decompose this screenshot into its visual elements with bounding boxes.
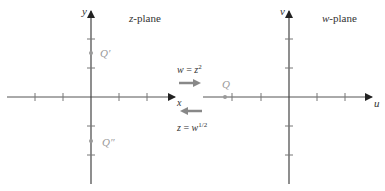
z-plane: y x Q′ Q″ z-plane <box>7 5 182 184</box>
q-label: Q <box>222 78 230 90</box>
left-arrow-icon <box>180 107 202 115</box>
q-double-prime-label: Q″ <box>102 136 115 148</box>
forward-mapping-label: w = z2 <box>177 63 202 75</box>
point-q <box>223 95 227 99</box>
point-q-prime <box>89 51 93 55</box>
z-x-axis-label: x <box>176 97 182 108</box>
w-v-axis-label: v <box>280 5 285 17</box>
w-plane: v u Q w-plane <box>203 5 380 184</box>
z-plane-title: z-plane <box>128 12 161 24</box>
point-q-double-prime <box>89 139 93 143</box>
q-prime-label: Q′ <box>100 47 111 59</box>
w-u-axis-label: u <box>374 97 380 109</box>
z-y-axis-label: y <box>81 5 87 17</box>
forward-mapping: w = z2 <box>177 63 202 87</box>
right-arrow-icon <box>179 79 201 87</box>
w-plane-title: w-plane <box>322 12 357 24</box>
conformal-mapping-diagram: y x Q′ Q″ z-plane v u Q w-plane w = z2 <box>0 0 385 191</box>
inverse-mapping: z = w1/2 <box>176 107 208 133</box>
inverse-mapping-label: z = w1/2 <box>176 121 208 133</box>
